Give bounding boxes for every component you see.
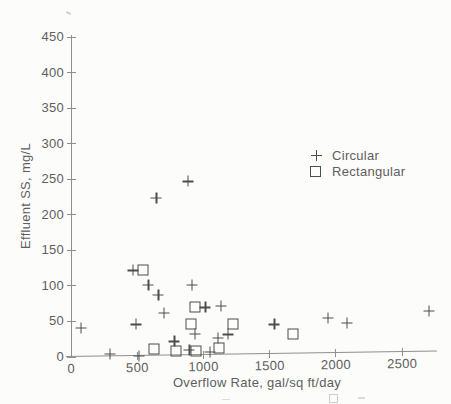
- data-point-rectangular: [213, 342, 224, 353]
- x-axis-tick: [335, 349, 336, 357]
- data-point-circular: [151, 192, 162, 203]
- data-point-circular: [269, 319, 280, 330]
- data-point-circular: [187, 280, 198, 291]
- square-marker-icon: [310, 166, 321, 177]
- data-point-circular: [75, 322, 86, 333]
- data-point-rectangular: [170, 345, 181, 356]
- legend-label-circular: Circular: [332, 148, 379, 163]
- x-axis-tick-label: 1000: [181, 359, 225, 375]
- data-point-circular: [153, 290, 164, 301]
- x-axis-tick-label: 2500: [380, 356, 424, 372]
- legend: Circular Rectangular: [311, 147, 405, 179]
- x-axis-tick-label: 2000: [314, 357, 358, 373]
- data-point-circular: [183, 176, 194, 187]
- legend-item-rectangular: Rectangular: [311, 163, 405, 179]
- data-point-circular: [424, 305, 435, 316]
- x-axis-tick: [269, 350, 270, 358]
- data-point-rectangular: [191, 346, 202, 357]
- x-axis-title: Overflow Rate, gal/sq ft/day: [173, 375, 341, 390]
- data-point-circular: [200, 302, 211, 313]
- legend-label-rectangular: Rectangular: [332, 164, 405, 179]
- data-point-rectangular: [138, 265, 149, 276]
- data-point-circular: [342, 317, 353, 328]
- scan-artifact-caption-square: [329, 394, 338, 403]
- data-point-circular: [134, 350, 145, 361]
- data-point-rectangular: [190, 302, 201, 313]
- scan-artifact-caption-dash: [222, 399, 230, 400]
- scan-artifact-caption-dash: [358, 397, 365, 399]
- data-point-rectangular: [287, 328, 298, 339]
- x-axis-tick-label: 1500: [248, 358, 292, 374]
- data-point-circular: [105, 349, 116, 360]
- plus-marker-icon: [311, 150, 322, 161]
- scatter-chart-figure: Effluent SS, mg/L 0501001502002503003504…: [0, 0, 451, 404]
- legend-item-circular: Circular: [311, 147, 405, 163]
- data-point-circular: [127, 265, 138, 276]
- x-axis-tick-label: 500: [115, 360, 159, 376]
- data-point-circular: [158, 307, 169, 318]
- x-axis-tick-label: 0: [49, 361, 93, 377]
- x-axis-tick: [401, 348, 402, 356]
- x-axis: 05001000150020002500: [0, 0, 451, 404]
- data-point-rectangular: [148, 344, 159, 355]
- data-point-rectangular: [185, 318, 196, 329]
- data-point-circular: [222, 329, 233, 340]
- data-point-circular: [215, 300, 226, 311]
- data-point-circular: [189, 328, 200, 339]
- data-point-circular: [130, 319, 141, 330]
- data-point-circular: [322, 312, 333, 323]
- data-point-rectangular: [227, 318, 238, 329]
